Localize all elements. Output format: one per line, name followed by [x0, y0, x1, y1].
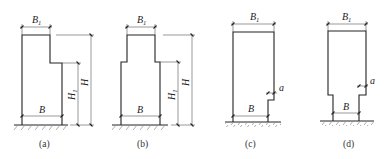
label-h1-a: H1 — [66, 90, 78, 101]
caption-c: (c) — [245, 139, 256, 150]
panel-d: B1 B a (d) — [320, 11, 375, 150]
ground-hatch-d — [320, 122, 374, 126]
ground-hatch-c — [225, 123, 281, 127]
svg-text:H1: H1 — [166, 90, 178, 101]
caption-a: (a) — [39, 139, 50, 150]
svg-text:H: H — [180, 78, 191, 87]
label-b-b: B — [137, 104, 143, 115]
label-a-d: a — [370, 75, 375, 86]
ground-hatch-a — [14, 126, 68, 130]
label-h1-b: H1 — [166, 90, 178, 101]
label-a-c: a — [279, 82, 284, 93]
label-b-c: B — [248, 103, 254, 114]
label-b1-a: B1 — [32, 14, 41, 26]
caption-d: (d) — [343, 139, 354, 150]
panel-c: B1 B a (c) — [225, 11, 284, 150]
svg-text:H: H — [79, 78, 90, 87]
label-h-a: H — [79, 78, 90, 87]
label-b1-d: B1 — [342, 11, 351, 23]
label-b-d: B — [343, 101, 349, 112]
label-b1-c: B1 — [250, 11, 259, 23]
panel-a: B1 B H1 H (a) — [14, 14, 94, 150]
label-h-b: H — [180, 78, 191, 87]
label-b-a: B — [39, 104, 45, 115]
panel-b: B1 B H1 H (b) — [112, 14, 195, 150]
ground-hatch-b — [112, 126, 168, 130]
svg-text:H1: H1 — [66, 90, 78, 101]
caption-b: (b) — [137, 139, 148, 150]
structure-diagram: B1 B H1 H (a) B1 — [0, 0, 388, 159]
label-b1-b: B1 — [137, 14, 146, 26]
